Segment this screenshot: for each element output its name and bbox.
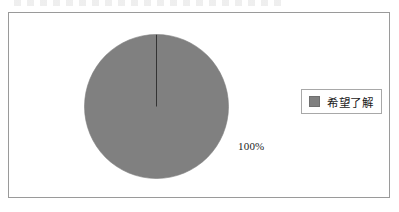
pie-data-label-percent: 100% <box>238 140 264 152</box>
scan-artifact-top-text <box>14 0 284 6</box>
pie-chart <box>84 34 229 179</box>
pie-svg <box>84 34 229 179</box>
plot-area: 100% 希望了解 <box>9 13 389 197</box>
chart-legend: 希望了解 <box>301 89 382 114</box>
legend-label-希望了解: 希望了解 <box>327 94 373 110</box>
chart-frame: 100% 希望了解 <box>8 12 390 198</box>
legend-swatch-希望了解 <box>309 96 320 107</box>
